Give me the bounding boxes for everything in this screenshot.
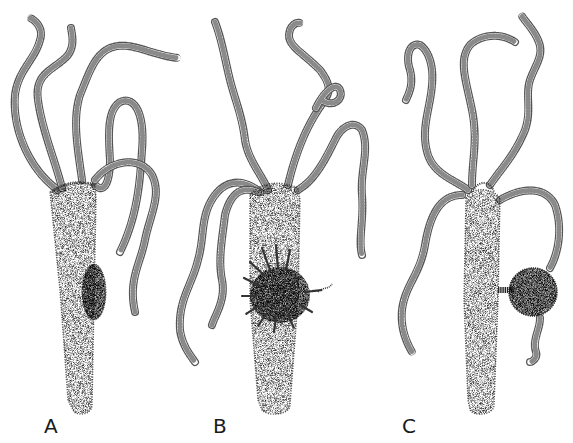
illustration-canvas [0,0,573,443]
hydra-budding-figure: A B C [0,0,573,443]
hydra-b [180,22,365,414]
hydra-c-body [464,190,500,414]
panel-label-b: B [213,416,227,436]
panel-label-a: A [44,416,58,436]
hydra-c [402,16,559,414]
panel-label-c: C [402,416,416,436]
hydra-a [15,18,178,414]
